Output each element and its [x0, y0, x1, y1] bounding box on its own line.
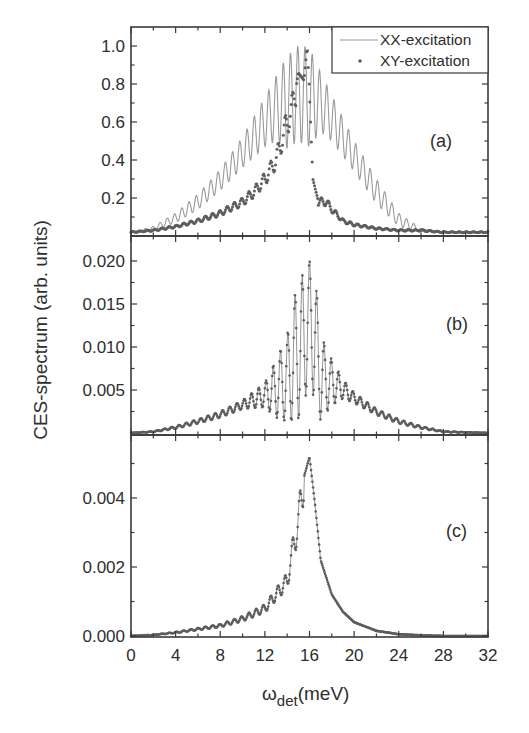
xy-excitation-point: [294, 104, 297, 107]
panel-b-point: [357, 401, 360, 404]
xy-excitation-point: [245, 199, 248, 202]
panel-b-point: [316, 297, 319, 300]
panel-b-point: [304, 383, 307, 386]
panel-c-point: [311, 480, 314, 483]
xy-excitation-point: [282, 134, 285, 137]
xy-excitation-point: [267, 174, 270, 177]
panel-b-point: [361, 401, 364, 404]
panel-b-point: [339, 381, 342, 384]
x-tick-label: 28: [434, 646, 453, 665]
panel-b-point: [303, 355, 306, 358]
xy-excitation-point: [244, 201, 247, 204]
panel-c-point: [316, 524, 319, 527]
panel-c-point: [260, 611, 263, 614]
xy-excitation-point: [238, 203, 241, 206]
panel-c-point: [282, 587, 285, 590]
x-tick-label: 20: [345, 646, 364, 665]
panel-b-point: [267, 398, 270, 401]
xy-excitation-point: [293, 97, 296, 100]
panel-b-point: [265, 379, 268, 382]
figure: 1.00.80.60.40.2 (a) XX-excitation XY-exc…: [0, 0, 529, 733]
xy-excitation-point: [276, 148, 279, 151]
y-tick-label: 0.010: [82, 338, 125, 357]
legend: XX-excitation XY-excitation: [332, 27, 488, 73]
panel-c-point: [304, 469, 307, 472]
panel-b-point: [274, 400, 277, 403]
y-axis-title: CES-spectrum (arb. units): [30, 220, 51, 440]
panel-c-point: [296, 526, 299, 529]
panel-b-point: [317, 322, 320, 325]
panel-b-point: [297, 417, 300, 420]
xy-excitation-point: [275, 156, 278, 159]
panel-b-point: [284, 410, 287, 413]
x-tick-label: 8: [216, 646, 225, 665]
panel-b-point: [258, 388, 261, 391]
y-tick-label: 0.002: [82, 558, 125, 577]
panel-c-point: [305, 467, 308, 470]
xy-excitation-point: [295, 82, 298, 85]
panel-b-point: [353, 396, 356, 399]
panel-b-y-ticks: 0.0200.0150.0100.005: [82, 252, 488, 412]
panel-b-point: [280, 350, 283, 353]
panel-b-point: [300, 310, 303, 313]
panel-b-point: [288, 374, 291, 377]
xy-excitation-point: [230, 208, 233, 211]
panel-c-point: [303, 474, 306, 477]
panel-b-point: [269, 408, 272, 411]
panel-b-point: [347, 394, 350, 397]
panel-c-point: [315, 517, 318, 520]
x-tick-label: 32: [479, 646, 498, 665]
panel-b-point: [302, 288, 305, 291]
y-tick-label: 0.2: [101, 189, 125, 208]
xy-excitation-point: [274, 164, 277, 167]
panel-c: 0.0040.0020.000 (c): [82, 435, 489, 646]
xy-excitation-point: [246, 195, 249, 198]
panel-c-point: [306, 464, 309, 467]
panel-b-point: [242, 402, 245, 405]
xy-excitation-point: [261, 177, 264, 180]
panel-c-point: [253, 612, 256, 615]
panel-b-point: [262, 401, 265, 404]
panel-c-point: [313, 498, 316, 501]
panel-c-point: [293, 543, 296, 546]
panel-b-point: [311, 378, 314, 381]
panel-b-point: [329, 372, 332, 375]
panel-b-point: [298, 413, 301, 416]
x-tick-label: 4: [171, 646, 180, 665]
panel-b-point: [276, 417, 279, 420]
panel-b-point: [310, 346, 313, 349]
xy-excitation-point: [273, 169, 276, 172]
panel-b-point: [349, 399, 352, 402]
xy-excitation-point: [287, 130, 290, 133]
panel-c-point: [288, 573, 291, 576]
panel-b-point: [264, 387, 267, 390]
xy-excitation-point: [260, 182, 263, 185]
y-tick-label: 0.8: [101, 75, 125, 94]
panel-b-point: [306, 321, 309, 324]
panel-b-point: [310, 309, 313, 312]
xy-excitation-point: [308, 83, 311, 86]
panel-b-point: [291, 402, 294, 405]
panel-b-point: [322, 350, 325, 353]
panel-b-point: [350, 394, 353, 397]
panel-c-point: [310, 469, 313, 472]
panel-b-point: [270, 387, 273, 390]
panel-c-point: [292, 538, 295, 541]
panel-b-point: [353, 393, 356, 396]
xy-excitation-point: [249, 193, 252, 196]
panel-b-point: [289, 400, 292, 403]
xy-excitation-point: [278, 145, 281, 148]
xy-excitation-point: [292, 92, 295, 95]
panel-c-point: [288, 579, 291, 582]
panel-b-label: (b): [446, 314, 468, 334]
panel-b-point: [345, 384, 348, 387]
panel-b-point: [331, 361, 334, 364]
panel-b-point: [320, 410, 323, 413]
xy-excitation-point: [288, 125, 291, 128]
xy-excitation-point: [312, 178, 315, 181]
panel-c-point: [280, 594, 283, 597]
panel-c-point: [298, 500, 301, 503]
panel-c-point: [308, 457, 311, 460]
panel-c-point: [304, 472, 307, 475]
panel-b-point: [346, 389, 349, 392]
